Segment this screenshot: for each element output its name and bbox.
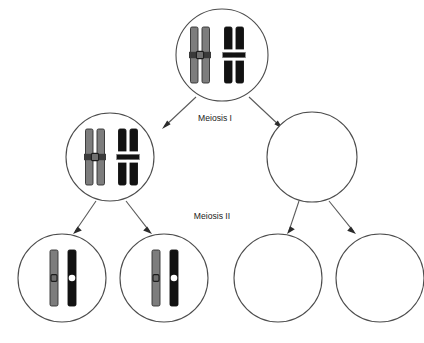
gamete-cell-2 <box>120 234 208 322</box>
chromatid-black-single <box>170 250 178 306</box>
chromatid-gray-single <box>50 250 58 306</box>
arrow-parent-to-daughter-left <box>162 97 196 129</box>
daughter-cell-right-membrane <box>267 112 357 202</box>
gamete-cell-4-membrane <box>336 234 424 322</box>
gamete-cell-3-membrane <box>234 234 322 322</box>
label-meiosis-two: Meiosis II <box>194 211 230 221</box>
meiosis-diagram: Meiosis I Meiosis II <box>0 0 424 343</box>
gamete-cell-4 <box>336 234 424 322</box>
gamete-cell-1-membrane <box>18 234 106 322</box>
daughter-cell-right <box>267 112 357 202</box>
arrow-daughter-left-to-gamete-2 <box>126 201 152 234</box>
gamete-cell-1 <box>18 234 106 322</box>
arrow-daughter-right-to-gamete-3 <box>287 201 299 234</box>
parent-cell <box>176 9 268 101</box>
gamete-cell-2-membrane <box>120 234 208 322</box>
chromatid-black-single <box>68 250 76 306</box>
gamete-cell-3 <box>234 234 322 322</box>
chromatid-gray-single <box>152 250 160 306</box>
arrow-daughter-left-to-gamete-1 <box>73 201 96 234</box>
daughter-cell-left <box>66 113 154 201</box>
label-meiosis-one: Meiosis I <box>198 113 232 123</box>
arrow-parent-to-daughter-right <box>249 97 283 129</box>
meiosis-diagram-canvas: Meiosis I Meiosis II <box>0 0 424 343</box>
daughter-cell-left-membrane <box>66 113 154 201</box>
arrow-daughter-right-to-gamete-4 <box>329 201 356 234</box>
